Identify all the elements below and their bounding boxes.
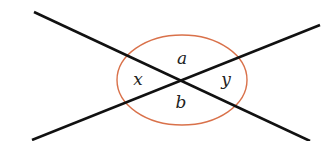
angle-label-a: a [177, 48, 187, 68]
straight-line-2 [32, 25, 320, 140]
intersecting-lines-diagram: a b x y [0, 0, 327, 141]
angle-label-x: x [133, 69, 143, 89]
angle-label-y: y [220, 69, 231, 89]
angle-label-b: b [176, 92, 187, 112]
